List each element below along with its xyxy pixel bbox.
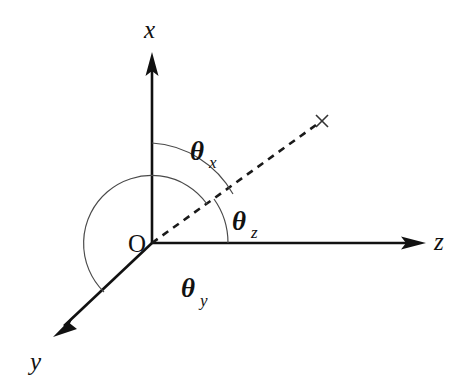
x-axis [146,52,159,243]
y-axis-arrowhead [53,316,77,337]
theta-z-label: θ z [232,206,258,242]
theta-y-subscript: y [198,291,208,310]
theta-y-label: θ y [181,273,208,310]
theta-x-subscript: x [208,153,217,172]
theta-x-label: θ x [190,136,217,172]
labels-group: O x z y θ x θ z θ y [27,16,444,375]
direction-angles-diagram: O x z y θ x θ z θ y [0,0,464,382]
z-axis-label: z [433,228,444,255]
theta-y-symbol: θ [181,273,195,303]
theta-x-symbol: θ [190,136,204,166]
z-axis [152,237,426,250]
axes-group [53,52,426,337]
theta-z-subscript: z [250,223,258,242]
coordinate-system-figure: O x z y θ x θ z θ y [0,0,464,382]
cross-marker [316,115,328,127]
x-axis-label: x [143,16,155,43]
theta-z-arc [214,199,228,243]
origin-label: O [128,230,146,257]
y-axis-label: y [27,348,42,375]
theta-z-symbol: θ [232,206,246,236]
